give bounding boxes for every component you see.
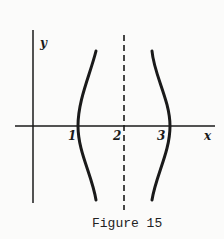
figure-canvas: y 1 2 3 x Figure 15 <box>0 0 224 239</box>
tick-label-1: 1 <box>68 129 76 143</box>
x-axis-label: x <box>203 129 212 143</box>
tick-label-3: 3 <box>157 129 165 143</box>
tick-label-2: 2 <box>112 129 121 143</box>
figure-caption: Figure 15 <box>92 216 162 231</box>
y-axis-label: y <box>39 36 48 50</box>
